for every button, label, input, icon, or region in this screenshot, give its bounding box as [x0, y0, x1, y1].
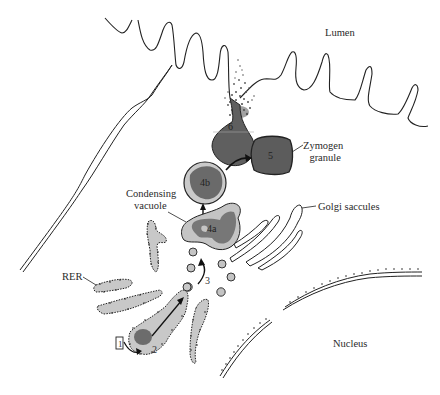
step-2-label: 2	[152, 345, 157, 355]
apical-membrane-right	[240, 52, 428, 127]
zymogen-label-line2: granule	[307, 152, 343, 164]
condensing-label-line2: vacuole	[134, 200, 176, 212]
step-5-label: 5	[268, 151, 273, 161]
zymogen-granule-label: Zymogen granule	[303, 140, 343, 164]
nuclear-envelope-ribosomes	[221, 268, 419, 371]
transport-vesicles	[184, 248, 235, 296]
step-6-label: 6	[228, 122, 233, 132]
golgi-saccules	[230, 205, 302, 270]
condensing-vacuole-label: Condensing vacuole	[126, 188, 176, 212]
diagram-canvas	[0, 0, 440, 395]
zymogen-label-line1: Zymogen	[303, 140, 343, 152]
golgi-leader-line	[302, 206, 316, 208]
zymogen-leader-line	[292, 145, 303, 152]
golgi-saccules-label: Golgi saccules	[318, 201, 380, 213]
lumen-label: Lumen	[325, 27, 355, 39]
step-4b-label: 4b	[200, 178, 210, 188]
rer-leader-line	[83, 277, 96, 285]
nucleus-label: Nucleus	[333, 338, 367, 350]
step-4a-label: 4a	[207, 224, 216, 234]
step-1-label: 1	[118, 339, 123, 349]
apical-membrane-left	[105, 18, 230, 98]
rer-protein-content	[134, 329, 152, 345]
rer-label: RER	[62, 271, 82, 283]
nuclear-envelope	[220, 272, 422, 378]
step-3-label: 3	[205, 276, 210, 286]
condensing-label-line1: Condensing	[126, 188, 176, 200]
condensing-leader-line	[168, 212, 186, 222]
